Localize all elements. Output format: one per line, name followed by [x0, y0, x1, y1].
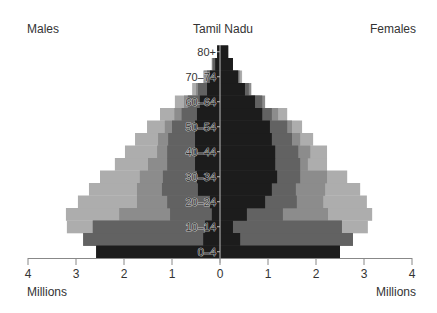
population-pyramid-chart: 432101234 0–410–1420–2430–3440–4450–5460…	[0, 0, 437, 313]
age-group-label: 40–44	[185, 146, 216, 158]
female-bar	[220, 146, 275, 159]
female-bar	[220, 96, 255, 109]
x-tick-label: 3	[361, 267, 368, 281]
age-group-label: 10–14	[185, 221, 216, 233]
female-bar	[220, 171, 277, 184]
male-bar	[83, 233, 220, 246]
x-tick-label: 1	[265, 267, 272, 281]
female-bar	[220, 58, 233, 71]
age-group-label: 0–4	[198, 246, 216, 258]
age-group-label: 30–34	[185, 171, 216, 183]
age-group-label: 70–74	[185, 71, 216, 83]
female-bar	[220, 183, 272, 196]
x-tick-label: 1	[169, 267, 176, 281]
female-bar	[220, 71, 238, 84]
x-tick-label: 0	[217, 267, 224, 281]
female-bar	[220, 233, 240, 246]
age-labels: 0–410–1420–2430–3440–4450–5460–6470–7480…	[185, 46, 220, 258]
female-bar	[220, 246, 340, 259]
female-bar	[220, 121, 270, 134]
x-tick-label: 2	[313, 267, 320, 281]
female-bar	[220, 221, 342, 234]
x-tick-label: 3	[73, 267, 80, 281]
x-tick-label: 4	[25, 267, 32, 281]
x-tick-label: 2	[121, 267, 128, 281]
male-bar	[198, 183, 220, 196]
x-tick-label: 4	[409, 267, 416, 281]
female-bar	[220, 158, 275, 171]
female-bar	[220, 133, 272, 146]
female-bar	[220, 46, 228, 59]
age-group-label: 60–64	[185, 96, 216, 108]
female-bar	[220, 83, 245, 96]
female-bar	[220, 208, 247, 221]
female-bar	[220, 221, 233, 234]
female-bar	[220, 196, 265, 209]
age-group-label: 50–54	[185, 121, 216, 133]
male-bar	[197, 108, 220, 121]
male-bar	[207, 83, 220, 96]
male-bar	[195, 133, 220, 146]
male-bar	[203, 233, 220, 246]
male-bar	[212, 208, 220, 221]
age-group-label: 80+	[197, 46, 216, 58]
male-bar	[195, 158, 220, 171]
female-bar	[220, 108, 262, 121]
male-bar	[215, 58, 220, 71]
age-group-label: 20–24	[185, 196, 216, 208]
